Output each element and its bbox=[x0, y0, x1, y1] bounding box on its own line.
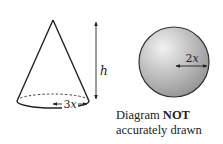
cone: 3x bbox=[17, 20, 89, 111]
cone-radius-label: 3x bbox=[63, 98, 77, 111]
caption-prefix: Diagram bbox=[116, 108, 163, 122]
height-indicator: h bbox=[96, 22, 108, 99]
cone-base-front bbox=[17, 101, 89, 108]
caption-line-2: accurately drawn bbox=[116, 123, 223, 138]
caption-line-1: Diagram NOT bbox=[116, 108, 223, 123]
caption-bold: NOT bbox=[163, 108, 190, 122]
cone-left-edge bbox=[17, 20, 53, 101]
cone-base-back-dashed bbox=[17, 94, 89, 101]
sphere: 2x bbox=[139, 27, 209, 97]
sphere-radius-label: 2x bbox=[185, 52, 199, 65]
height-label: h bbox=[100, 64, 108, 78]
diagram-caption: Diagram NOT accurately drawn bbox=[116, 108, 223, 138]
cone-right-edge bbox=[53, 20, 89, 101]
